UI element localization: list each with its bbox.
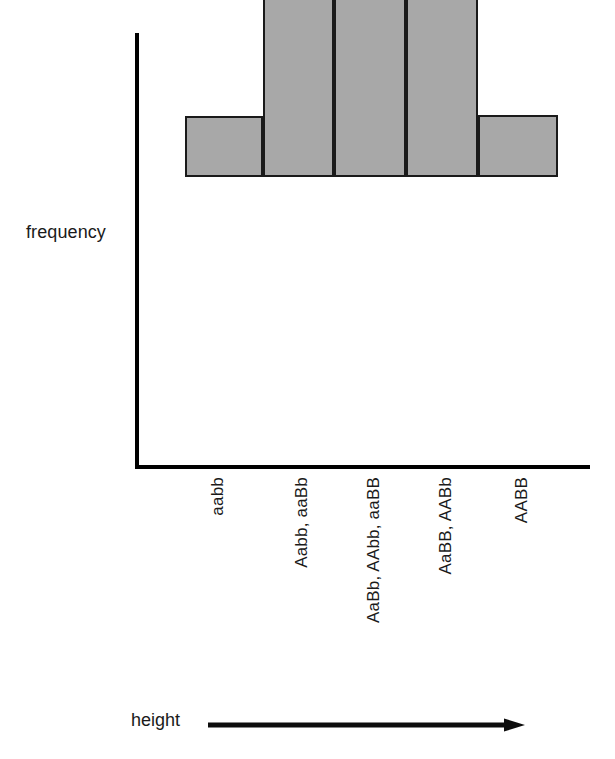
x-tick-label-2: AaBb, AAbb, aaBB xyxy=(364,477,383,623)
bar-aabb-aabb-right xyxy=(406,0,478,177)
plot-area xyxy=(0,0,615,469)
x-axis-title-row: height xyxy=(0,705,615,739)
right-arrow-icon xyxy=(208,718,525,732)
x-tick-label-3: AaBB, AABb xyxy=(436,477,455,574)
x-tick-label-0: aabb xyxy=(208,477,227,516)
bar-aabb-right xyxy=(478,115,558,177)
x-tick-labels: aabb Aabb, aaBb AaBb, AAbb, aaBB AaBB, A… xyxy=(0,469,615,709)
bar-aabb-aabb-aabb xyxy=(334,0,406,177)
x-tick-label-4: AABB xyxy=(512,477,531,523)
x-axis-label: height xyxy=(131,709,180,731)
histogram-figure: frequency aabb Aabb, aaBb AaBb, AAbb, aa… xyxy=(0,0,615,759)
x-tick-label-1: Aabb, aaBb xyxy=(292,477,311,568)
bar-aabb-aabb xyxy=(263,0,334,177)
bar-aabb xyxy=(185,116,263,177)
